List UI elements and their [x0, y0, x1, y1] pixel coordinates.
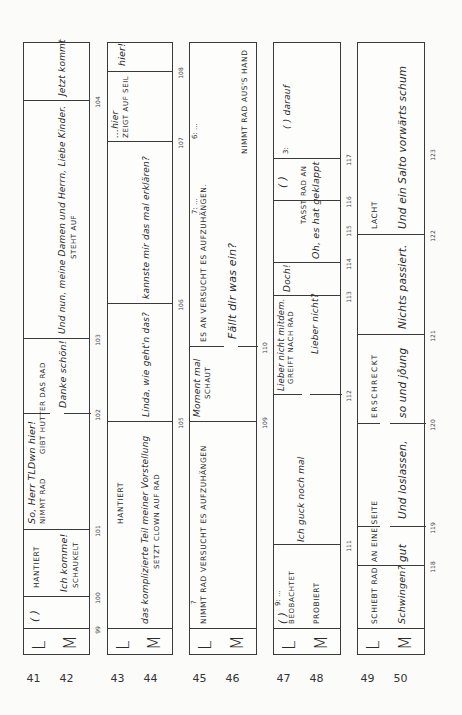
- speaker-column: L M: [24, 628, 89, 654]
- line-number: 46: [226, 672, 240, 685]
- l-utterance: ( ): [28, 610, 40, 622]
- time-divider: [108, 141, 172, 142]
- m-utterance: so und jo̊ung: [396, 348, 408, 418]
- l-action: ES AN VERSUCHT ES AUFZUHÄNGEN.: [199, 183, 208, 342]
- timestamp: 108: [177, 67, 184, 78]
- l-action: HANTIERT: [32, 546, 41, 588]
- timestamp: 121: [429, 330, 436, 341]
- m-utterance: Danke schön!: [57, 340, 68, 408]
- timestamp: 110: [261, 342, 268, 353]
- timestamp: 103: [94, 334, 101, 345]
- line-number: 44: [144, 672, 158, 685]
- l-action: SCHIEBT RAD: [370, 567, 379, 624]
- time-divider: [274, 544, 340, 545]
- time-divider: [274, 158, 340, 159]
- l-action: NIMMT RAD: [39, 478, 47, 524]
- l-utterance: ( ) darauf: [282, 85, 292, 129]
- l-utterance: Moment mal: [192, 359, 202, 417]
- l-action: LACHT: [370, 201, 379, 229]
- time-divider: [238, 346, 258, 347]
- timestamp: 109: [261, 417, 268, 428]
- speaker-label-l: L: [279, 641, 299, 650]
- time-divider: [358, 565, 424, 566]
- l-action: AN EINE SEITE: [370, 500, 379, 562]
- m-utterance: das komplizierte Teil meiner Vorstellung: [140, 436, 150, 624]
- l-action: ZEIGT AUF SEIL: [122, 76, 130, 138]
- m-utterance: Ich guck noch mal: [296, 456, 306, 542]
- timestamp: 102: [94, 409, 101, 420]
- time-divider: [274, 295, 340, 296]
- timestamp: 114: [345, 258, 352, 269]
- timestamp: 120: [429, 419, 436, 430]
- line-number: 47: [277, 672, 291, 685]
- time-divider: [390, 423, 426, 424]
- l-action: HANTIERT: [116, 482, 125, 524]
- timestamp: 100: [94, 592, 101, 603]
- l-action: SCHAUT: [204, 367, 212, 399]
- m-utterance: Lieber nicht?: [310, 293, 320, 354]
- speaker-label-m: M: [227, 635, 247, 650]
- line-number: 42: [60, 672, 74, 685]
- l-action: GIBT HUTTER DAS RAD: [39, 362, 47, 454]
- m-utterance: kannste mir das mal erklären?: [141, 156, 151, 299]
- speaker-label-m: M: [311, 635, 331, 650]
- m-utterance: Und loslassen,: [396, 440, 408, 519]
- m-utterance: Ich komme!: [58, 533, 69, 592]
- l-pause: ?: [190, 600, 198, 604]
- transcript-strip-2: L M HANTIERT das komplizierte Teil meine…: [107, 42, 173, 655]
- time-divider: [358, 423, 380, 424]
- timestamp: 104: [94, 96, 101, 107]
- time-divider: [274, 262, 340, 263]
- speaker-label-l: L: [195, 641, 215, 650]
- speaker-label-l: L: [113, 641, 133, 650]
- speaker-column: L M: [274, 628, 340, 654]
- m-utterance: Und ein Salto vorwärts schum: [396, 66, 408, 229]
- l-utterance: So, Herr TLDwn hier!: [26, 421, 37, 524]
- speaker-label-l: L: [363, 641, 383, 650]
- transcript-strip-4: L M ( ) 9: ... BEOBACHTET PROBIERT Ich g…: [273, 42, 341, 655]
- time-divider: [190, 421, 256, 422]
- speaker-label-m: M: [395, 635, 415, 650]
- l-action: RAD AN: [300, 165, 308, 196]
- l-utterance: ...hier: [110, 111, 120, 138]
- timestamp: 119: [429, 522, 436, 533]
- time-divider: [108, 71, 172, 72]
- timestamp: 106: [177, 299, 184, 310]
- line-number: 50: [394, 672, 408, 685]
- timestamp: 116: [345, 196, 352, 207]
- l-action: BEOBACHTET: [288, 571, 296, 624]
- m-action: SCHAUKELT: [72, 542, 80, 588]
- timestamp: 107: [177, 137, 184, 148]
- time-divider: [24, 529, 89, 530]
- line-number: 43: [111, 672, 125, 685]
- m-utterance: Nichts passiert.: [396, 244, 408, 329]
- time-divider: [24, 338, 89, 339]
- l-utterance: ( ): [276, 176, 288, 188]
- transcript-strip-3: L M ? NIMMT RAD VERSUCHT ES AUFZUHÄNGEN …: [189, 42, 257, 655]
- m-utterance: Jetzt kommt: [57, 39, 67, 96]
- speaker-label-l: L: [29, 641, 49, 650]
- m-utterance: Schwingen?: [396, 565, 407, 624]
- time-divider: [358, 234, 424, 235]
- transcript-strip-5: L M SCHIEBT RAD AN EINE SEITE ERSCHRECKT…: [357, 42, 425, 655]
- m-utterance: Fällt dir was ein?: [226, 243, 239, 339]
- l-utterance: ( ): [276, 612, 288, 624]
- timestamp: 118: [429, 561, 436, 572]
- l-pause: 3:: [282, 147, 290, 154]
- timestamp: 105: [177, 417, 184, 428]
- timestamp: 122: [429, 230, 436, 241]
- time-divider: [310, 394, 342, 395]
- time-divider: [390, 526, 426, 527]
- l-pause: 7: ...: [191, 198, 199, 214]
- transcript-page: 41 42 L M ( ) HANTIERT Ich komme! SCHAUK…: [0, 0, 462, 715]
- m-action: TASST: [300, 199, 308, 224]
- l-pause: 9: ...: [274, 590, 282, 606]
- timestamp: 113: [345, 291, 352, 302]
- speaker-label-m: M: [60, 635, 80, 650]
- l-action: NIMMT RAD VERSUCHT ES AUFZUHÄNGEN: [199, 445, 208, 624]
- l-action: GREIFT NACH RAD: [287, 311, 295, 384]
- l-utterance: hier!: [116, 43, 127, 66]
- line-number: 41: [27, 672, 41, 685]
- l-action: NIMMT RAD AUS'S HAND: [240, 49, 249, 154]
- timestamp: 112: [345, 390, 352, 401]
